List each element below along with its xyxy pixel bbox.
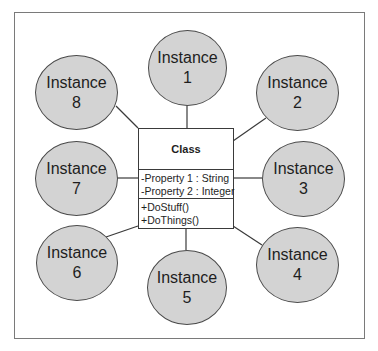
instance-4: Instance 4 [256,227,339,303]
instance-8: Instance 8 [35,55,118,130]
instance-number: 3 [299,179,308,199]
instance-label: Instance [46,159,106,179]
class-instance-diagram: Instance 1 Instance 2 Instance 3 Instanc… [0,0,378,351]
class-attribute: -Property 2 : Integer [141,185,233,198]
instance-label: Instance [46,73,106,93]
instance-label: Instance [267,73,327,93]
connector-instance-6 [106,226,138,237]
instance-label: Instance [273,159,333,179]
instance-label: Instance [267,245,327,265]
class-method: +DoStuff() [141,201,233,214]
instance-number: 2 [293,93,302,113]
instance-number: 1 [183,68,192,88]
uml-class-box: Class -Property 1 : String -Property 2 :… [138,128,234,229]
class-attribute: -Property 1 : String [141,172,233,185]
instance-2: Instance 2 [256,55,339,131]
instance-5: Instance 5 [147,250,227,325]
class-method: +DoThings() [141,214,233,227]
instance-number: 6 [73,263,82,283]
class-methods: +DoStuff() +DoThings() [139,199,233,228]
instance-1: Instance 1 [148,30,227,106]
instance-number: 4 [293,265,302,285]
class-attributes: -Property 1 : String -Property 2 : Integ… [139,170,233,199]
class-name: Class [139,129,233,170]
instance-7: Instance 7 [35,141,118,216]
instance-label: Instance [157,48,217,68]
instance-number: 5 [183,288,192,308]
instance-number: 8 [72,93,81,113]
instance-label: Instance [47,243,107,263]
connector-instance-8 [116,106,138,128]
instance-6: Instance 6 [36,225,118,301]
instance-3: Instance 3 [262,141,345,217]
instance-number: 7 [72,179,81,199]
connector-instance-2 [233,118,266,141]
instance-label: Instance [157,268,217,288]
connector-instance-4 [233,226,262,245]
